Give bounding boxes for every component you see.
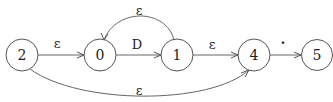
edge-1-to-4-label: ε bbox=[209, 37, 216, 52]
edge-2-to-4: ε bbox=[30, 69, 249, 98]
edge-2-to-0-label: ε bbox=[54, 36, 61, 51]
edge-4-to-5-label: · bbox=[281, 35, 286, 51]
node-2-label: 2 bbox=[18, 47, 27, 63]
edge-4-to-5: · bbox=[270, 35, 301, 58]
nfa-diagram: ε D ε ε · ε bbox=[0, 0, 333, 102]
edge-2-to-0: ε bbox=[38, 36, 84, 58]
edge-2-to-4-label: ε bbox=[136, 83, 143, 98]
node-4-label: 4 bbox=[250, 47, 259, 63]
edge-1-to-4: ε bbox=[193, 37, 238, 58]
node-5-label: 5 bbox=[313, 47, 322, 63]
edge-1-to-0-label: ε bbox=[136, 3, 143, 18]
edge-1-to-0: ε bbox=[101, 3, 174, 40]
node-4: 4 bbox=[238, 39, 270, 71]
edge-0-to-1-label: D bbox=[132, 37, 142, 52]
node-5: 5 bbox=[302, 40, 333, 71]
node-2: 2 bbox=[6, 39, 38, 71]
node-1-label: 1 bbox=[173, 47, 182, 63]
node-0: 0 bbox=[84, 39, 116, 71]
node-1: 1 bbox=[161, 39, 193, 71]
edge-0-to-1: D bbox=[116, 37, 161, 58]
node-0-label: 0 bbox=[96, 47, 105, 63]
